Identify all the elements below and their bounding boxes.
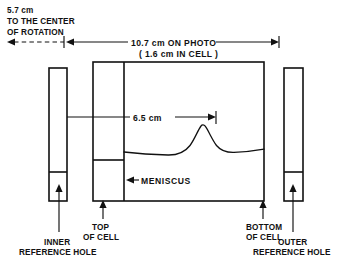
schlieren-trace-curve — [124, 125, 264, 155]
center-of-rotation-line2: OF ROTATION — [7, 28, 64, 37]
inner-reference-hole-bar — [49, 68, 67, 201]
inner-reference-hole-arrow-icon — [55, 184, 62, 232]
outer-reference-hole-line1: OUTER — [278, 238, 307, 247]
top-of-cell-line1: TOP — [92, 223, 110, 232]
bottom-of-cell-arrow-icon — [259, 200, 266, 219]
outer-reference-hole-line2: REFERENCE HOLE — [253, 248, 331, 257]
meniscus-arrow-icon — [126, 176, 139, 183]
bottom-of-cell-line2: OF CELL — [246, 233, 282, 242]
outer-reference-hole-arrow-icon — [289, 184, 296, 232]
inner-reference-hole-line1: INNER — [44, 238, 70, 247]
figure-root: 5.7 cm TO THE CENTER OF ROTATION 10.7 cm… — [0, 0, 344, 263]
radius-mark-value: 6.5 cm — [133, 113, 162, 123]
inner-reference-hole-line2: REFERENCE HOLE — [19, 248, 97, 257]
meniscus-label: MENISCUS — [141, 176, 191, 186]
center-of-rotation-value: 5.7 cm — [7, 6, 33, 15]
center-of-rotation-line1: TO THE CENTER — [7, 17, 75, 26]
outer-reference-hole-bar — [284, 68, 303, 201]
top-of-cell-line2: OF CELL — [83, 233, 119, 242]
diagram-canvas: 5.7 cm TO THE CENTER OF ROTATION 10.7 cm… — [0, 0, 344, 263]
top-of-cell-arrow-icon — [99, 200, 106, 219]
photo-span-line2: ( 1.6 cm IN CELL ) — [139, 49, 218, 59]
bottom-of-cell-line1: BOTTOM — [246, 223, 282, 232]
center-of-rotation-arrow-icon — [7, 36, 64, 48]
photo-span-line1: 10.7 cm ON PHOTO — [131, 38, 216, 48]
